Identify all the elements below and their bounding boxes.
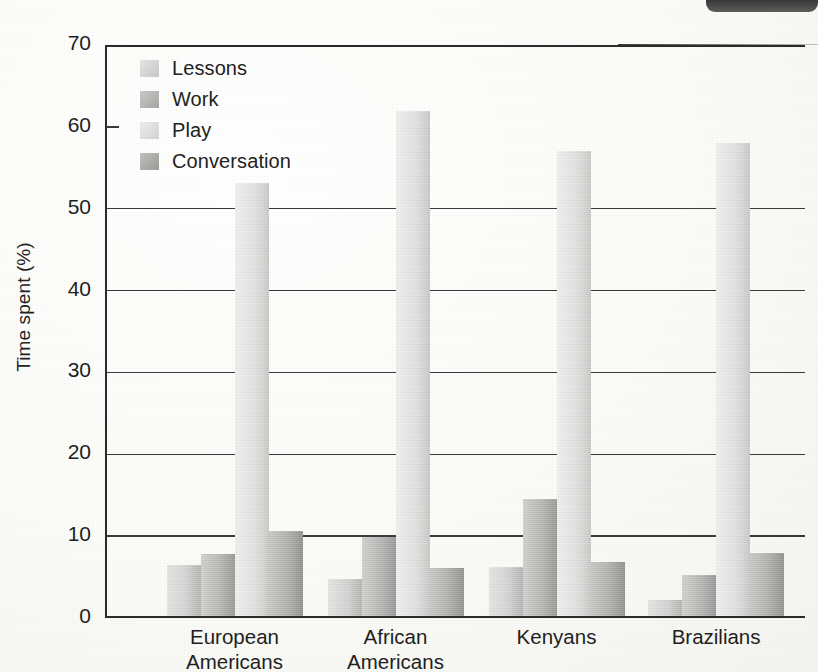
bar-texture: [269, 531, 303, 616]
legend-label-lessons: Lessons: [172, 57, 247, 80]
bar-texture: [167, 565, 201, 617]
bar-texture: [716, 143, 750, 616]
bar-texture: [750, 553, 784, 617]
x-label-line: Americans: [301, 649, 491, 672]
legend-item-lessons: Lessons: [140, 53, 291, 84]
legend-label-conversation: Conversation: [172, 150, 291, 173]
y-tick-label-30: 30: [31, 358, 91, 382]
legend-swatch-lessons: [140, 60, 159, 77]
bar-conversation-european-americans: [269, 531, 303, 616]
bar-work-kenyans: [523, 499, 557, 616]
bar-work-brazilians: [682, 575, 716, 616]
bar-conversation-african-americans: [430, 568, 464, 616]
bar-texture: [591, 562, 625, 617]
bar-chart-figure: Time spent (%) 010203040506070 LessonsWo…: [0, 0, 818, 672]
legend-swatch-play: [140, 122, 159, 139]
plot-area: LessonsWorkPlayConversation: [105, 45, 805, 618]
bar-texture: [682, 575, 716, 616]
bar-texture: [362, 537, 396, 616]
bar-conversation-kenyans: [591, 562, 625, 617]
x-label-brazilians: Brazilians: [621, 624, 811, 649]
bar-texture: [235, 183, 269, 617]
legend: LessonsWorkPlayConversation: [140, 53, 291, 177]
bar-play-kenyans: [557, 151, 591, 616]
y-tick-label-20: 20: [31, 440, 91, 464]
legend-label-work: Work: [172, 88, 219, 111]
bar-texture: [557, 151, 591, 616]
y-axis-line: [105, 45, 107, 618]
bar-texture: [201, 554, 235, 616]
y-tick-label-0: 0: [31, 604, 91, 628]
axis-top-line: [105, 45, 805, 47]
y-tick-label-60: 60: [31, 113, 91, 137]
y-axis-title: Time spent (%): [13, 197, 35, 417]
bar-work-european-americans: [201, 554, 235, 616]
bar-play-african-americans: [396, 111, 430, 616]
legend-item-work: Work: [140, 84, 291, 115]
bar-conversation-brazilians: [750, 553, 784, 617]
y-tick-label-40: 40: [31, 277, 91, 301]
bar-texture: [396, 111, 430, 616]
scan-edge-line-artifact: [618, 44, 818, 45]
y-tick-label-50: 50: [31, 195, 91, 219]
x-label-line: Brazilians: [621, 624, 811, 649]
bar-lessons-brazilians: [648, 600, 682, 616]
bar-lessons-european-americans: [167, 565, 201, 617]
bar-work-african-americans: [362, 537, 396, 616]
bar-play-brazilians: [716, 143, 750, 616]
legend-label-play: Play: [172, 119, 211, 142]
bar-texture: [430, 568, 464, 616]
legend-swatch-conversation: [140, 153, 159, 170]
legend-item-play: Play: [140, 115, 291, 146]
x-axis-line: [105, 616, 805, 618]
y-tick-label-70: 70: [31, 31, 91, 55]
legend-swatch-work: [140, 91, 159, 108]
y-tick-label-10: 10: [31, 522, 91, 546]
bar-texture: [328, 579, 362, 617]
bar-texture: [523, 499, 557, 616]
bar-lessons-african-americans: [328, 579, 362, 617]
legend-item-conversation: Conversation: [140, 146, 291, 177]
bar-play-european-americans: [235, 183, 269, 617]
scan-shadow-artifact: [706, 0, 818, 12]
bar-lessons-kenyans: [489, 567, 523, 616]
bar-texture: [489, 567, 523, 616]
bar-texture: [648, 600, 682, 616]
x-axis-category-labels: EuropeanAmericansAfricanAmericansKenyans…: [105, 624, 805, 672]
